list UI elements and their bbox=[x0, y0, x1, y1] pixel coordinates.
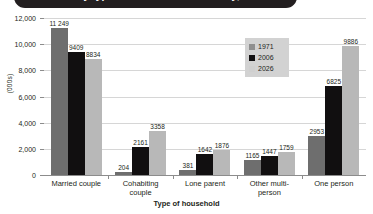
y-axis-tick-label: 12,000 bbox=[0, 15, 41, 22]
bar[interactable] bbox=[325, 86, 342, 175]
x-axis-line bbox=[44, 175, 366, 176]
y-axis-tick-label: 2,000 bbox=[0, 145, 41, 152]
bar[interactable] bbox=[51, 28, 68, 175]
bar[interactable] bbox=[308, 136, 325, 175]
bar-value-label: 9409 bbox=[69, 44, 83, 51]
bar[interactable] bbox=[196, 154, 213, 175]
x-axis-category-line: One person bbox=[302, 179, 366, 188]
bar-group: 20421613358 bbox=[108, 18, 172, 175]
bar-wrapper: 1642 bbox=[196, 18, 213, 175]
y-axis-tick-label: 10,000 bbox=[0, 41, 41, 48]
bar-value-label: 9886 bbox=[344, 38, 358, 45]
x-axis-category-line: Other multi- bbox=[237, 179, 301, 188]
bar[interactable] bbox=[68, 52, 85, 175]
bar[interactable] bbox=[261, 156, 278, 175]
chart-title-banner: Households by type of household and fami… bbox=[14, 0, 297, 8]
bar-group: 38116421876 bbox=[173, 18, 237, 175]
bar[interactable] bbox=[85, 59, 102, 175]
legend-swatch-icon bbox=[249, 44, 255, 50]
bar-group-bars: 20421613358 bbox=[108, 18, 172, 175]
bar-value-label: 1642 bbox=[198, 146, 212, 153]
x-axis-category-label: Married couple bbox=[44, 179, 108, 188]
bar[interactable] bbox=[179, 170, 196, 175]
bar-value-label: 1759 bbox=[279, 144, 293, 151]
bar[interactable] bbox=[244, 160, 261, 175]
bar-wrapper: 3358 bbox=[149, 18, 166, 175]
bar-value-label: 2161 bbox=[133, 139, 147, 146]
legend-item[interactable]: 1971 bbox=[249, 41, 285, 52]
legend-item[interactable]: 2026 bbox=[249, 63, 285, 74]
x-axis-label: Type of household bbox=[0, 199, 373, 208]
bar-group-bars: 11 24994098834 bbox=[44, 18, 108, 175]
bar-value-label: 1876 bbox=[215, 142, 229, 149]
legend-label: 2026 bbox=[258, 65, 274, 72]
bar-wrapper: 8834 bbox=[85, 18, 102, 175]
x-axis-category-label: Cohabitingcouple bbox=[108, 179, 172, 197]
x-axis-category-line: Married couple bbox=[44, 179, 108, 188]
plot-area: 11 2499409883420421613358381164218761165… bbox=[44, 18, 366, 176]
y-axis-tick-label: 4,000 bbox=[0, 119, 41, 126]
bar-wrapper: 1876 bbox=[213, 18, 230, 175]
bar-value-label: 204 bbox=[118, 164, 129, 171]
bar-value-label: 6825 bbox=[327, 78, 341, 85]
bar-value-label: 1447 bbox=[262, 148, 276, 155]
bar[interactable] bbox=[213, 150, 230, 175]
chart-figure: Households by type of household and fami… bbox=[0, 0, 373, 214]
bar-value-label: 2953 bbox=[310, 128, 324, 135]
chart-legend: 197120062026 bbox=[245, 38, 289, 77]
legend-label: 1971 bbox=[258, 43, 274, 50]
x-axis-category-label: Other multi-person bbox=[237, 179, 301, 197]
y-axis-tick-label: 8,000 bbox=[0, 67, 41, 74]
bar-wrapper: 6825 bbox=[325, 18, 342, 175]
legend-swatch-icon bbox=[249, 55, 255, 61]
bar-value-label: 381 bbox=[183, 162, 194, 169]
bar-wrapper: 11 249 bbox=[51, 18, 68, 175]
bar[interactable] bbox=[115, 172, 132, 175]
bar[interactable] bbox=[149, 131, 166, 175]
legend-item[interactable]: 2006 bbox=[249, 52, 285, 63]
y-axis-tick-label: 6,000 bbox=[0, 93, 41, 100]
bar-wrapper: 9409 bbox=[68, 18, 85, 175]
bar[interactable] bbox=[342, 46, 359, 175]
x-axis-category-line: couple bbox=[108, 188, 172, 197]
y-axis-tick-label: 0 bbox=[0, 172, 41, 179]
bar-value-label: 11 249 bbox=[49, 20, 68, 27]
bar-wrapper: 204 bbox=[115, 18, 132, 175]
legend-swatch-icon bbox=[249, 66, 255, 72]
x-axis-category-line: Lone parent bbox=[173, 179, 237, 188]
bar-group: 11 24994098834 bbox=[44, 18, 108, 175]
x-axis-category-label: Lone parent bbox=[173, 179, 237, 188]
legend-label: 2006 bbox=[258, 54, 274, 61]
bar-value-label: 3358 bbox=[150, 123, 164, 130]
bar[interactable] bbox=[132, 147, 149, 175]
bar-group: 295368259886 bbox=[302, 18, 366, 175]
bar-value-label: 8834 bbox=[86, 51, 100, 58]
bar-wrapper: 9886 bbox=[342, 18, 359, 175]
bar-wrapper: 381 bbox=[179, 18, 196, 175]
bar[interactable] bbox=[278, 152, 295, 175]
x-axis-category-line: Cohabiting bbox=[108, 179, 172, 188]
x-axis-category-line: person bbox=[237, 188, 301, 197]
bar-group-bars: 38116421876 bbox=[173, 18, 237, 175]
x-axis-category-label: One person bbox=[302, 179, 366, 188]
bar-wrapper: 2161 bbox=[132, 18, 149, 175]
bar-wrapper: 2953 bbox=[308, 18, 325, 175]
bar-group-bars: 295368259886 bbox=[302, 18, 366, 175]
bar-value-label: 1165 bbox=[245, 152, 259, 159]
